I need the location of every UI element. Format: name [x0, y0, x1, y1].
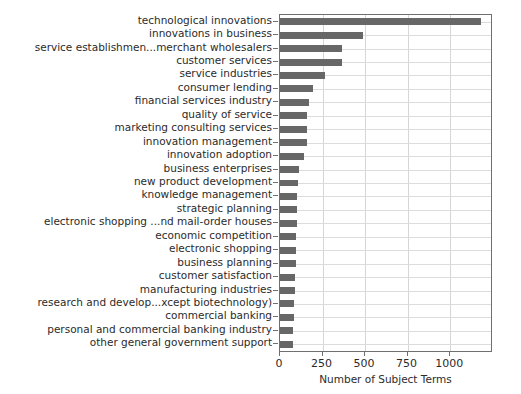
y-axis-category-label: innovation management: [143, 136, 272, 147]
bar: [280, 45, 342, 52]
y-axis-tick: [273, 236, 278, 237]
bar: [280, 327, 293, 334]
bar: [280, 247, 296, 254]
y-axis-category-label: electronic shopping ...nd mail-order hou…: [44, 216, 272, 227]
y-axis-category-label: business enterprises: [164, 163, 272, 174]
bar: [280, 99, 309, 106]
y-axis-category-label: financial services industry: [135, 95, 272, 106]
y-axis-category-label: personal and commercial banking industry: [47, 324, 272, 335]
bar: [280, 18, 481, 25]
y-axis-tick: [273, 209, 278, 210]
y-axis-tick: [273, 316, 278, 317]
x-axis-tick: [449, 352, 450, 356]
y-axis-tick: [273, 290, 278, 291]
y-axis-category-label: manufacturing industries: [140, 284, 272, 295]
bar: [280, 72, 325, 79]
y-axis-category-label: strategic planning: [177, 203, 272, 214]
y-axis-tick: [273, 88, 278, 89]
bar: [280, 300, 294, 307]
y-axis-tick: [273, 74, 278, 75]
bar: [280, 180, 298, 187]
bar: [280, 112, 307, 119]
bar: [280, 233, 296, 240]
y-axis-tick: [273, 195, 278, 196]
y-axis-category-label: consumer lending: [178, 82, 272, 93]
bar: [280, 314, 294, 321]
bar: [280, 126, 307, 133]
bar: [280, 59, 342, 66]
bar: [280, 193, 297, 200]
x-axis-title: Number of Subject Terms: [279, 373, 492, 385]
y-axis-category-label: technological innovations: [138, 15, 272, 26]
x-axis-tick: [279, 352, 280, 356]
x-axis-tick-label: 1000: [435, 357, 463, 370]
x-axis-tick-label: 0: [276, 357, 283, 370]
bar: [280, 220, 297, 227]
y-axis-category-label: new product development: [134, 176, 272, 187]
x-axis-tick: [322, 352, 323, 356]
y-axis-category-label: service establishmen...merchant wholesal…: [35, 42, 272, 53]
y-axis-tick: [273, 330, 278, 331]
y-axis-category-label: customer services: [176, 55, 272, 66]
x-axis-tick: [407, 352, 408, 356]
y-axis-category-label: electronic shopping: [169, 243, 272, 254]
y-axis-tick: [273, 182, 278, 183]
bar-series: [280, 15, 491, 351]
y-axis-tick: [273, 21, 278, 22]
x-axis-tick: [364, 352, 365, 356]
y-axis-category-label: other general government support: [90, 337, 272, 348]
y-axis-tick: [273, 303, 278, 304]
y-axis-category-label: knowledge management: [141, 189, 272, 200]
bar: [280, 166, 299, 173]
y-axis-category-label: research and develop...xcept biotechnolo…: [38, 297, 272, 308]
y-axis-category-label: business planning: [177, 257, 272, 268]
y-axis-tick: [273, 276, 278, 277]
y-axis-tick: [273, 343, 278, 344]
chart-figure: technological innovationsinnovations in …: [0, 0, 521, 394]
bar: [280, 139, 307, 146]
y-axis-category-label: customer satisfaction: [159, 270, 272, 281]
y-axis-tick: [273, 128, 278, 129]
y-axis-category-label: economic competition: [155, 230, 272, 241]
plot-area: [279, 14, 492, 352]
x-axis-tick-label: 250: [311, 357, 332, 370]
y-axis-tick: [273, 61, 278, 62]
x-axis-tick-label: 500: [354, 357, 375, 370]
y-axis-category-label: commercial banking: [165, 310, 272, 321]
bar: [280, 341, 293, 348]
y-axis-tick: [273, 263, 278, 264]
y-axis-tick: [273, 155, 278, 156]
y-axis-category-label: service industries: [179, 68, 272, 79]
y-axis-category-label: innovations in business: [149, 28, 272, 39]
y-axis-tick: [273, 34, 278, 35]
bar: [280, 153, 304, 160]
y-axis-category-label: quality of service: [182, 109, 272, 120]
y-axis-tick: [273, 48, 278, 49]
y-axis-category-label: marketing consulting services: [114, 122, 272, 133]
y-axis-tick: [273, 249, 278, 250]
y-axis-tick: [273, 101, 278, 102]
bar: [280, 287, 295, 294]
y-axis-tick: [273, 169, 278, 170]
bar: [280, 274, 295, 281]
y-axis-tick: [273, 142, 278, 143]
bar: [280, 206, 297, 213]
y-axis-tick: [273, 222, 278, 223]
y-axis-category-label: innovation adoption: [167, 149, 272, 160]
y-axis-tick: [273, 115, 278, 116]
y-axis-category-labels: technological innovationsinnovations in …: [0, 14, 272, 352]
bar: [280, 260, 296, 267]
x-axis-tick-label: 750: [396, 357, 417, 370]
bar: [280, 85, 313, 92]
bar: [280, 32, 363, 39]
